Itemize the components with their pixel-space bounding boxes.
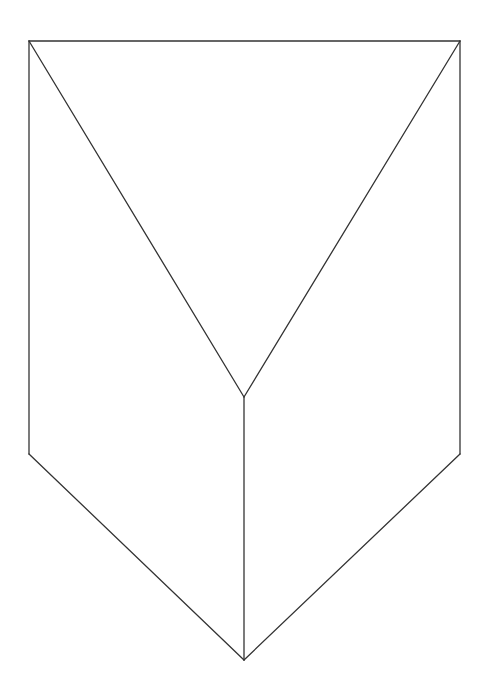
edge-right-bottom — [244, 454, 460, 660]
edge-left-bottom — [29, 454, 244, 660]
edge-top-right-to-center — [244, 41, 460, 397]
prism-diagram — [0, 0, 487, 695]
edge-top-left-to-center — [29, 41, 244, 397]
